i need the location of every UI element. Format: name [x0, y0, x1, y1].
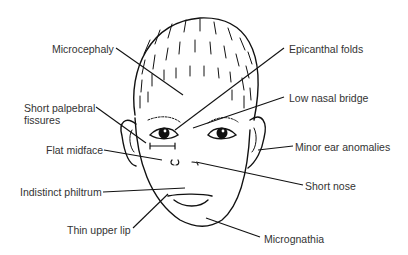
leader-indistinct-philtrum [103, 188, 185, 192]
face-illustration [0, 0, 408, 255]
mouth-upper-lip [168, 194, 212, 196]
leader-low-nasal-bridge [193, 97, 284, 128]
leader-short-palpebral-fissures [96, 107, 146, 143]
label-indistinct-philtrum: Indistinct philtrum [20, 186, 102, 198]
leader-minor-ear-anomalies [258, 146, 293, 150]
label-short-palpebral-fissures: Short palpebral fissures [24, 102, 95, 126]
leader-micrognathia [206, 218, 260, 237]
leader-thin-upper-lip [133, 194, 168, 228]
hair-strokes [140, 19, 252, 108]
label-short-nose: Short nose [305, 180, 356, 192]
right-pupil [217, 128, 228, 139]
left-pupil [159, 128, 170, 139]
leader-short-nose [196, 162, 303, 185]
label-short-palpebral-line1: Short palpebral [24, 102, 95, 114]
label-flat-midface: Flat midface [46, 144, 103, 156]
label-thin-upper-lip: Thin upper lip [67, 224, 131, 236]
right-ear [248, 117, 265, 168]
mouth-lower-lip [174, 200, 208, 206]
label-minor-ear-anomalies: Minor ear anomalies [295, 141, 390, 153]
right-eyebrow [208, 118, 238, 123]
leader-microcephaly [116, 48, 183, 95]
label-epicanthal-folds: Epicanthal folds [289, 43, 363, 55]
label-microcephaly: Microcephaly [52, 43, 114, 55]
fas-face-diagram: Microcephaly Epicanthal folds Short palp… [0, 0, 408, 255]
nose [171, 160, 198, 165]
label-low-nasal-bridge: Low nasal bridge [289, 92, 368, 104]
palpebral-measure [150, 143, 175, 149]
head-outline [134, 18, 258, 120]
label-micrognathia: Micrognathia [264, 233, 324, 245]
label-short-palpebral-line2: fissures [24, 114, 95, 126]
left-eyebrow [148, 117, 180, 122]
leader-lines [96, 48, 303, 237]
